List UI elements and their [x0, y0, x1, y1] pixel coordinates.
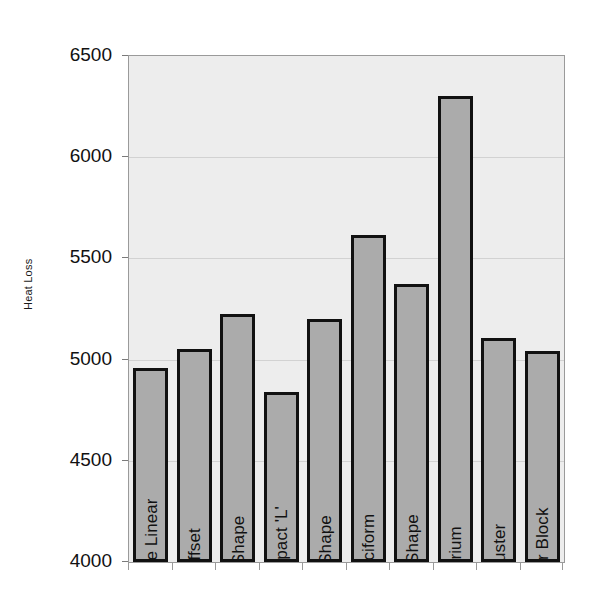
bar-label: Cluster: [482, 524, 499, 563]
bar-label: Offset: [177, 528, 194, 563]
bar-label-text: Compact 'L': [273, 506, 290, 563]
x-tick-mark: [433, 563, 434, 570]
bar-label: Cruciform: [351, 514, 368, 563]
bar-label-text: Atrium: [447, 526, 464, 563]
bar[interactable]: Cluster: [481, 338, 516, 562]
y-tick-label: 6000: [2, 145, 112, 167]
bar[interactable]: Compact 'L': [264, 392, 299, 562]
bar-label-text: Simple Linear: [142, 498, 159, 563]
bar[interactable]: Atrium: [438, 96, 473, 562]
y-tick-label: 5500: [2, 246, 112, 268]
x-tick-mark: [520, 563, 521, 570]
bar-label-text: 'U' Shape: [403, 514, 420, 563]
bar[interactable]: Cruciform: [351, 235, 386, 562]
bar-label-text: Cruciform: [360, 514, 377, 563]
bar-label: Poinr Block: [525, 507, 542, 563]
bar-label-text: Cluster: [490, 524, 507, 563]
x-tick-mark: [476, 563, 477, 570]
x-tick-mark: [562, 563, 563, 570]
plot-area: Simple LinearOffset'L' ShapeCompact 'L''…: [128, 55, 565, 563]
bar-label-text: Offset: [186, 528, 203, 563]
bar[interactable]: Poinr Block: [525, 351, 560, 563]
bar-label: 'U' Shape: [395, 514, 412, 563]
bar[interactable]: Simple Linear: [133, 368, 168, 562]
bar-label: Atrium: [438, 526, 455, 563]
bar-label: Simple Linear: [134, 498, 151, 563]
y-tick-label: 4500: [2, 449, 112, 471]
x-tick-mark: [215, 563, 216, 570]
y-tick-label: 4000: [2, 550, 112, 572]
x-tick-mark: [346, 563, 347, 570]
y-tick-label: 5000: [2, 348, 112, 370]
bar-label: Compact 'L': [264, 506, 281, 563]
bar-label: 'T' Shape: [308, 515, 325, 563]
bar[interactable]: Offset: [177, 349, 212, 562]
bars-container: Simple LinearOffset'L' ShapeCompact 'L''…: [129, 56, 564, 562]
bar-chart-figure: Heat Loss 400045005000550060006500 Simpl…: [0, 0, 595, 597]
bar-label: 'L' Shape: [221, 516, 238, 563]
y-tick-label: 6500: [2, 44, 112, 66]
x-tick-mark: [128, 563, 129, 570]
x-tick-mark: [389, 563, 390, 570]
bar-label-text: 'L' Shape: [229, 516, 246, 563]
bar-label-text: Poinr Block: [534, 507, 551, 563]
x-tick-mark: [302, 563, 303, 570]
x-axis-tick-marks: [128, 563, 565, 571]
bar[interactable]: 'L' Shape: [220, 314, 255, 562]
x-tick-mark: [259, 563, 260, 570]
x-tick-mark: [172, 563, 173, 570]
bar[interactable]: 'U' Shape: [394, 284, 429, 562]
bar-label-text: 'T' Shape: [316, 515, 333, 563]
bar[interactable]: 'T' Shape: [307, 319, 342, 562]
y-axis-tick-labels: 400045005000550060006500: [0, 0, 122, 597]
